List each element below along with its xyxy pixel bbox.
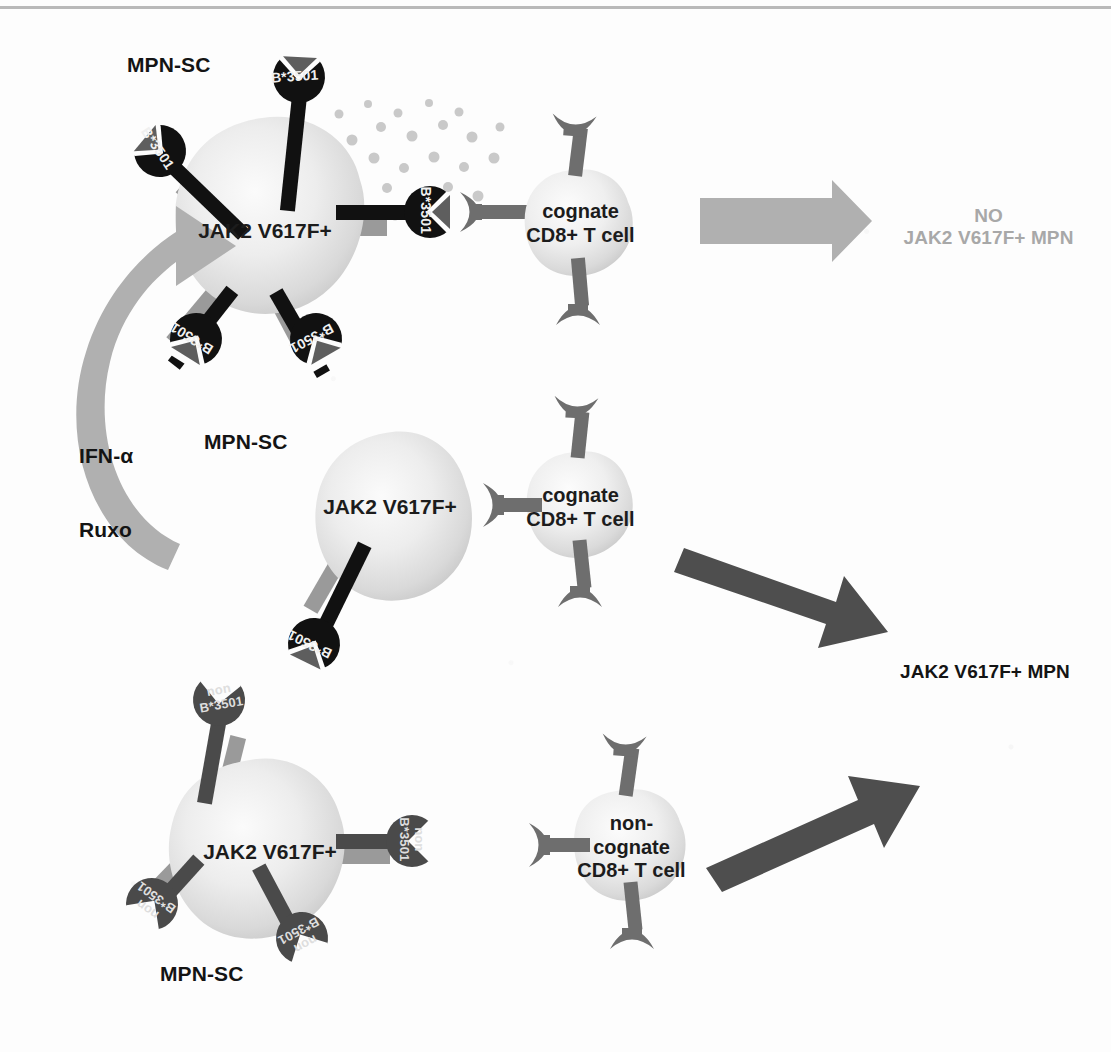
label-outcome-no-mpn: NO JAK2 V617F+ MPN [876, 205, 1101, 250]
tcr-middle-up [553, 396, 598, 419]
tcr-bottom-down [610, 928, 654, 949]
tcr-top-down [556, 304, 600, 325]
tcr-bottom-left [529, 823, 550, 867]
row-bottom [115, 670, 920, 974]
row-middle [279, 396, 888, 680]
arrow-mpn-lower [706, 776, 920, 892]
cell-body-mpn-sc-top [175, 117, 364, 314]
arrow-no-mpn [700, 180, 872, 262]
row-top [123, 49, 872, 378]
label-treatment-ifn: IFN-α [79, 444, 133, 469]
label-mpn-sc-bottom: MPN-SC [160, 962, 243, 987]
tcr-bottom-up [601, 733, 646, 757]
label-tcell-top: cognate CD8+ T cell [508, 200, 653, 247]
label-cell-bottom: JAK2 V617F+ [180, 840, 360, 865]
label-mpn-sc-top: MPN-SC [127, 53, 210, 78]
figure-canvas: MPN-SC JAK2 V617F+ cognate CD8+ T cell N… [0, 0, 1111, 1052]
label-cell-middle: JAK2 V617F+ [300, 495, 480, 520]
tcr-middle-left [483, 483, 504, 527]
label-treatment: IFN-α Ruxo [79, 394, 133, 592]
label-tcell-bottom: non- cognate CD8+ T cell [564, 812, 699, 883]
label-treatment-ruxo: Ruxo [79, 518, 133, 543]
label-cell-top: JAK2 V617F+ [175, 219, 355, 244]
label-tcell-middle: cognate CD8+ T cell [508, 484, 653, 531]
arrow-mpn-upper [674, 548, 888, 648]
mhc-label-bottom-east: non B*3501 [397, 807, 428, 871]
label-outcome-mpn: JAK2 V617F+ MPN [900, 661, 1070, 683]
mhc-label-top-north: B*3501 [270, 66, 318, 86]
label-mpn-sc-middle: MPN-SC [204, 430, 287, 455]
tcr-middle-down [558, 586, 602, 607]
tcr-top-up [551, 113, 596, 137]
mhc-label-top-east: B*3501 [417, 187, 434, 234]
